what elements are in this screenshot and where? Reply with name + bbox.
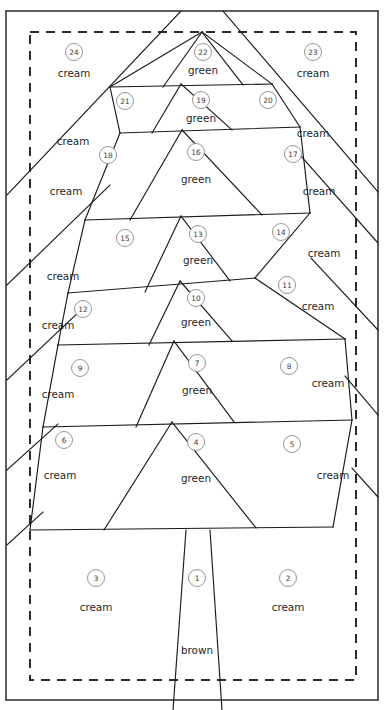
piece-number-text-2: 2 bbox=[286, 574, 291, 583]
piece-number-text-11: 11 bbox=[282, 281, 292, 290]
fabric-label-22: green bbox=[188, 64, 218, 76]
fabric-label-2: cream bbox=[272, 601, 305, 613]
piece-number-text-13: 13 bbox=[193, 230, 203, 239]
fabric-label-20: cream bbox=[297, 127, 330, 139]
pattern-canvas: 1brown2cream3cream4green5cream6cream7gre… bbox=[0, 0, 390, 710]
fabric-label-8: cream bbox=[312, 377, 345, 389]
fabric-label-1: brown bbox=[181, 644, 213, 656]
fabric-label-19: green bbox=[186, 112, 216, 124]
fabric-label-24: cream bbox=[58, 67, 91, 79]
fabric-label-14: cream bbox=[308, 247, 341, 259]
piece-number-text-21: 21 bbox=[120, 97, 130, 106]
fabric-label-23: cream bbox=[297, 67, 330, 79]
piece-number-text-10: 10 bbox=[191, 294, 201, 303]
piece-number-text-14: 14 bbox=[276, 228, 286, 237]
fabric-label-13: green bbox=[183, 254, 213, 266]
tree-pattern-svg: 1brown2cream3cream4green5cream6cream7gre… bbox=[0, 0, 390, 710]
fabric-label-10: green bbox=[181, 316, 211, 328]
piece-number-text-9: 9 bbox=[78, 364, 83, 373]
piece-number-text-5: 5 bbox=[290, 440, 295, 449]
piece-number-text-8: 8 bbox=[287, 362, 292, 371]
fabric-label-18: cream bbox=[50, 185, 83, 197]
fabric-label-11: cream bbox=[302, 300, 335, 312]
piece-number-text-24: 24 bbox=[69, 48, 79, 57]
piece-number-text-17: 17 bbox=[288, 150, 298, 159]
fabric-label-9: cream bbox=[42, 388, 75, 400]
fabric-label-17: cream bbox=[303, 185, 336, 197]
piece-number-text-12: 12 bbox=[78, 305, 87, 314]
piece-number-text-3: 3 bbox=[94, 574, 99, 583]
piece-number-text-16: 16 bbox=[191, 148, 201, 157]
piece-number-text-22: 22 bbox=[198, 48, 207, 57]
fabric-label-5: cream bbox=[317, 469, 350, 481]
fabric-label-16: green bbox=[181, 173, 211, 185]
fabric-label-6: cream bbox=[44, 469, 77, 481]
piece-number-text-20: 20 bbox=[263, 96, 273, 105]
piece-number-text-15: 15 bbox=[120, 234, 130, 243]
fabric-label-4: green bbox=[181, 472, 211, 484]
fabric-label-12: cream bbox=[42, 319, 75, 331]
piece-number-text-4: 4 bbox=[194, 438, 199, 447]
piece-number-text-7: 7 bbox=[195, 359, 200, 368]
fabric-label-7: green bbox=[182, 384, 212, 396]
fabric-label-3: cream bbox=[80, 601, 113, 613]
piece-number-text-18: 18 bbox=[103, 151, 113, 160]
piece-number-text-23: 23 bbox=[308, 48, 318, 57]
fabric-label-15: cream bbox=[47, 270, 80, 282]
piece-number-text-19: 19 bbox=[196, 96, 206, 105]
piece-number-text-1: 1 bbox=[195, 574, 200, 583]
piece-number-text-6: 6 bbox=[62, 436, 67, 445]
fabric-label-21: cream bbox=[57, 135, 90, 147]
